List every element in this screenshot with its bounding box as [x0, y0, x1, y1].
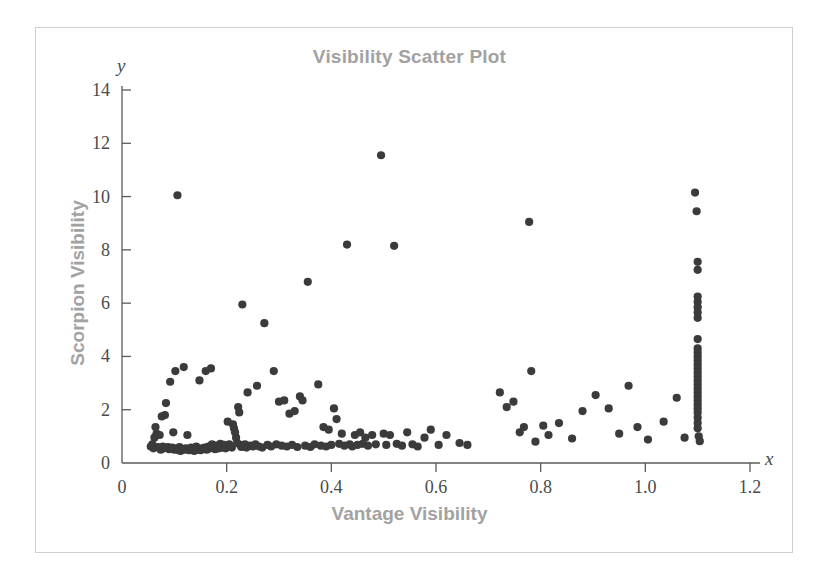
y-tick-label: 10: [76, 186, 110, 207]
y-tick-label: 2: [76, 399, 110, 420]
figure-frame: [35, 27, 793, 553]
x-tick-label: 1.2: [739, 477, 762, 498]
x-tick-label: 0.8: [529, 477, 552, 498]
screenshot-root: Visibility Scatter Plot Vantage Visibili…: [0, 0, 819, 586]
x-tick-label: 0.6: [425, 477, 448, 498]
x-tick-label: 0.2: [215, 477, 238, 498]
y-tick-label: 0: [76, 453, 110, 474]
y-tick-label: 8: [76, 239, 110, 260]
y-tick-label: 6: [76, 293, 110, 314]
x-tick-label: 1.0: [634, 477, 657, 498]
x-axis-title: Vantage Visibility: [0, 503, 819, 525]
x-tick-label: 0: [118, 477, 127, 498]
x-tick-label: 0.4: [320, 477, 343, 498]
y-tick-label: 4: [76, 346, 110, 367]
y-axis-variable-symbol: y: [117, 55, 125, 77]
x-axis-variable-symbol: x: [765, 448, 773, 470]
y-tick-label: 14: [76, 80, 110, 101]
y-tick-label: 12: [76, 133, 110, 154]
